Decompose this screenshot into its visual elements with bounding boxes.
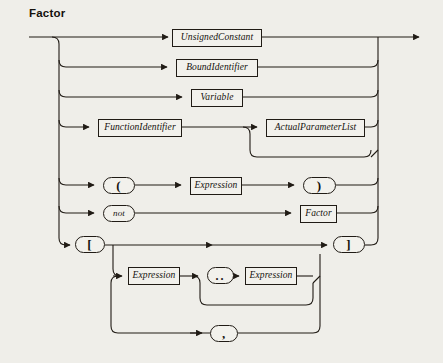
node-unsigned-constant[interactable]: UnsignedConstant [172, 29, 262, 47]
railroad-diagram: Factor [0, 0, 443, 363]
merge-variable [243, 90, 378, 97]
merge-rparen [336, 178, 378, 185]
node-factor-ref[interactable]: Factor [300, 205, 337, 223]
node-actual-parameter-list[interactable]: ActualParameterList [266, 119, 365, 137]
right-rail [371, 37, 378, 245]
node-lbracket[interactable]: [ [75, 236, 105, 253]
merge-factor-ref [337, 206, 378, 213]
branch-lparen [59, 178, 94, 185]
node-rbracket[interactable]: ] [333, 236, 365, 253]
node-variable[interactable]: Variable [191, 89, 243, 107]
drop-to-element-list [113, 245, 120, 276]
bypass-apl-join [371, 150, 378, 157]
node-expression-range-low[interactable]: Expression [128, 267, 180, 285]
bypass-range-join [313, 276, 320, 283]
branch-bound-identifier [59, 60, 167, 67]
branch-function-identifier [59, 120, 89, 127]
node-rparen[interactable]: ) [303, 177, 336, 194]
node-function-identifier[interactable]: FunctionIdentifier [98, 119, 182, 137]
node-comma-separator[interactable]: , [210, 325, 238, 342]
branch-variable [59, 90, 182, 97]
left-rail [52, 37, 66, 245]
merge-actual-parameter-list [365, 120, 378, 127]
node-not-keyword[interactable]: not [103, 205, 135, 222]
node-expression-paren[interactable]: Expression [190, 177, 242, 195]
merge-bound-identifier [258, 60, 378, 67]
node-expression-range-high[interactable]: Expression [245, 267, 297, 285]
node-range-dots[interactable]: .. [207, 267, 234, 284]
node-bound-identifier[interactable]: BoundIdentifier [176, 59, 258, 77]
node-lparen[interactable]: ( [103, 177, 135, 194]
branch-not [59, 206, 94, 213]
